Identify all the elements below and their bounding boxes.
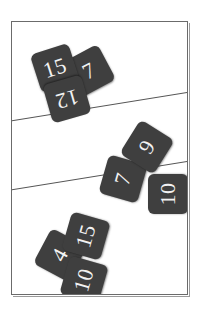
divider-line-upper [11,90,188,122]
card-value: 15 [72,222,99,250]
card-value: 9 [135,136,160,157]
card-value: 12 [53,85,81,112]
card-value: 7 [111,170,135,187]
card-value: 10 [70,266,97,294]
scene: 15 7 12 9 7 10 15 4 10 [0,0,200,319]
framed-panel: 15 7 12 9 7 10 15 4 10 [11,21,188,295]
card-value: 10 [157,183,179,206]
number-card[interactable]: 10 [148,174,188,214]
